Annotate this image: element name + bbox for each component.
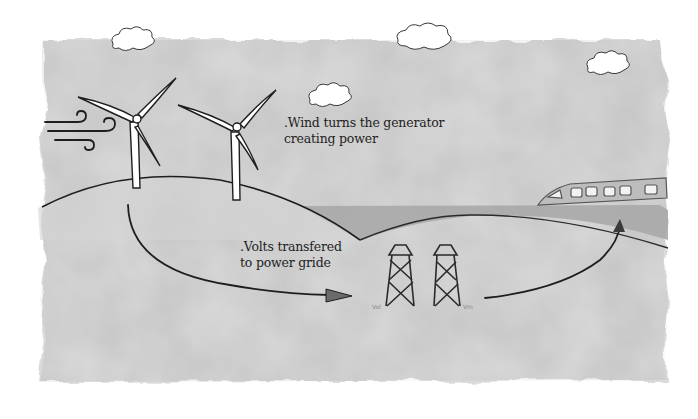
tower-scribble-right: Vm <box>463 303 473 310</box>
tower-scribble-left: Vol <box>372 303 381 310</box>
annotation-volts-line2: to power gride <box>240 255 342 271</box>
annotation-wind-line2: creating power <box>284 131 444 147</box>
illustration-canvas <box>0 0 698 419</box>
wind-power-diagram <box>0 0 698 419</box>
annotation-wind: .Wind turns the generator creating power <box>284 115 444 147</box>
annotation-volts-line1: .Volts transfered <box>240 239 342 255</box>
annotation-wind-line1: .Wind turns the generator <box>284 115 444 131</box>
annotation-volts: .Volts transfered to power gride <box>240 239 342 271</box>
